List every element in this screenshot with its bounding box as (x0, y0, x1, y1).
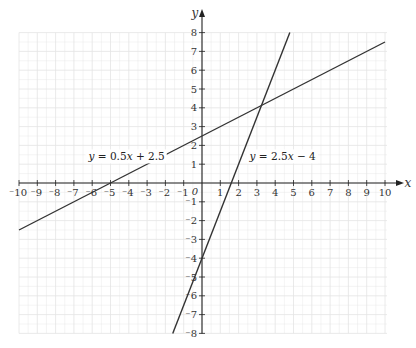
x-tick-label: 8 (345, 187, 351, 198)
y-axis-label: y (191, 6, 199, 20)
y-tick-label: 8 (191, 27, 197, 38)
x-tick-label: ⁻2 (159, 187, 171, 198)
axes: xy (19, 6, 412, 333)
y-tick-label: 3 (191, 121, 197, 132)
y-tick-label: ⁻2 (185, 215, 197, 226)
y-tick-label: 1 (191, 159, 197, 170)
x-tick-label: ⁻3 (140, 187, 152, 198)
x-tick-label: 7 (327, 187, 333, 198)
x-tick-label: 2 (235, 187, 241, 198)
x-axis-label: x (405, 176, 412, 190)
x-tick-label: ⁻7 (67, 187, 79, 198)
x-tick-label: 5 (290, 187, 296, 198)
y-tick-label: ⁻7 (185, 309, 197, 320)
y-tick-label: 7 (191, 46, 197, 57)
x-tick-label: 6 (309, 187, 315, 198)
equation-label-2: y = 2.5x − 4 (249, 150, 317, 162)
y-axis-arrow-icon (199, 9, 205, 17)
y-tick-label: ⁻1 (185, 196, 197, 207)
y-tick-label: ⁻3 (185, 234, 197, 245)
linear-graph: xy ⁻10⁻9⁻8⁻7⁻6⁻5⁻4⁻3⁻2⁻112345678910⁻8⁻7⁻… (0, 0, 416, 348)
y-tick-label: 5 (191, 84, 197, 95)
x-tick-label: ⁻10 (9, 187, 27, 198)
x-tick-label: ⁻9 (30, 187, 42, 198)
x-tick-label: 1 (217, 187, 223, 198)
equation-label-1: y = 0.5x + 2.5 (88, 150, 165, 162)
x-tick-label: ⁻8 (49, 187, 61, 198)
y-tick-label: ⁻8 (185, 328, 197, 339)
x-tick-label: 3 (254, 187, 260, 198)
x-tick-label: 9 (364, 187, 370, 198)
x-axis-arrow-icon (396, 180, 404, 186)
y-tick-label: 4 (191, 102, 197, 113)
x-tick-label: 4 (272, 187, 278, 198)
y-tick-label: 6 (191, 65, 197, 76)
y-tick-label: ⁻4 (185, 253, 197, 264)
x-tick-label: 10 (379, 187, 392, 198)
x-tick-label: ⁻4 (122, 187, 134, 198)
origin-label: 0 (192, 186, 199, 197)
x-tick-label: ⁻5 (104, 187, 116, 198)
